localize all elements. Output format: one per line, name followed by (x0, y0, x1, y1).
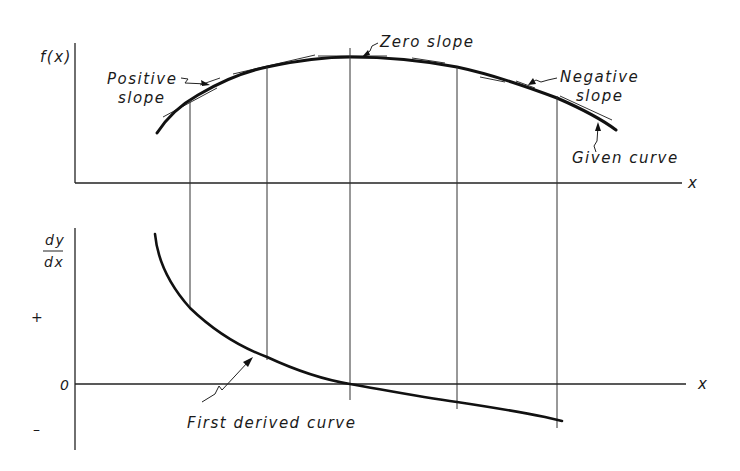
top-x-axis-label: x (687, 174, 698, 192)
arrow-head-icon (595, 122, 601, 131)
arrow-head-icon (201, 80, 210, 86)
minus-label: – (33, 421, 42, 437)
zero-label: 0 (60, 377, 70, 393)
dx-label: dx (44, 254, 64, 270)
top-y-axis-label: f(x) (40, 48, 72, 66)
negative-slope-label-1: Negative (560, 68, 639, 86)
vertical-guides (190, 48, 557, 428)
tangent-lines (163, 55, 612, 120)
bottom-plot: dy dx + 0 – x First derived curve (31, 228, 708, 450)
top-plot: f(x) x Positive slope Zero slope Negativ… (40, 33, 698, 192)
given-curve (157, 57, 616, 133)
given-curve-label: Given curve (572, 149, 679, 167)
first-derived-curve-leader (202, 362, 248, 402)
zero-slope-label: Zero slope (379, 33, 475, 51)
positive-slope-label-2: slope (118, 89, 165, 107)
dy-label: dy (45, 232, 65, 248)
plus-label: + (31, 309, 44, 325)
derivative-diagram: f(x) x Positive slope Zero slope Negativ… (0, 0, 740, 471)
bottom-x-axis-label: x (697, 375, 708, 393)
first-derived-curve-label: First derived curve (187, 414, 356, 432)
arrow-head-icon (528, 78, 536, 85)
negative-slope-label-2: slope (576, 87, 623, 105)
positive-slope-label-1: Positive (107, 70, 177, 88)
